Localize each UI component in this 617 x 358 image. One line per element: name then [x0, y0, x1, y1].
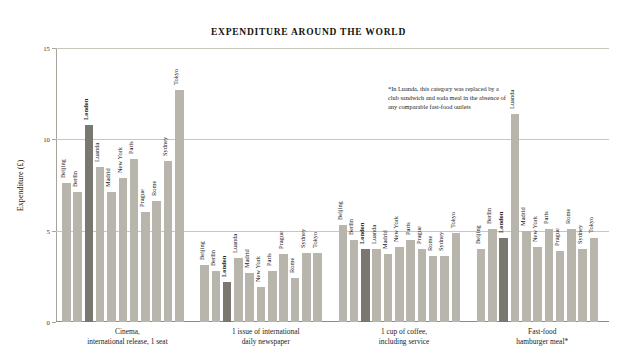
bar-slot[interactable]: Sydney — [164, 48, 173, 322]
bar[interactable] — [62, 183, 71, 322]
bar-slot[interactable]: London — [361, 48, 370, 322]
bar-slot[interactable]: Beijing — [200, 48, 209, 322]
y-tick-label: 0 — [34, 319, 50, 326]
bar[interactable] — [257, 287, 266, 322]
bar-slot[interactable]: Sydney — [302, 48, 311, 322]
bar-slot[interactable]: London — [223, 48, 232, 322]
y-axis-title: Expenditure (£) — [14, 48, 28, 322]
bar[interactable] — [567, 229, 576, 322]
bar[interactable] — [477, 249, 486, 322]
bar[interactable] — [522, 231, 531, 322]
bar[interactable] — [96, 167, 105, 322]
bar-slot[interactable]: Beijing — [62, 48, 71, 322]
bar-slot[interactable]: Paris — [268, 48, 277, 322]
bar[interactable] — [107, 192, 116, 322]
bar-slot[interactable]: Prague — [556, 48, 565, 322]
y-tick-label: 10 — [34, 136, 50, 143]
bar-slot[interactable]: Madrid — [522, 48, 531, 322]
bar[interactable] — [152, 201, 161, 322]
bar-slot[interactable]: Luanda — [511, 48, 520, 322]
bar[interactable] — [141, 212, 150, 322]
bar[interactable] — [440, 256, 449, 322]
bar[interactable] — [361, 249, 370, 322]
bar[interactable] — [175, 90, 184, 322]
footnote-annotation: *In Luanda, this category was replaced b… — [388, 84, 506, 111]
bar[interactable] — [85, 125, 94, 322]
bar[interactable] — [556, 251, 565, 322]
bar[interactable] — [372, 249, 381, 322]
bar[interactable] — [212, 271, 221, 322]
bar-slot[interactable]: Tokyo — [175, 48, 184, 322]
bar-slot[interactable]: Prague — [279, 48, 288, 322]
bar-slot[interactable]: Rome — [152, 48, 161, 322]
bar[interactable] — [418, 249, 427, 322]
bar[interactable] — [406, 240, 415, 322]
bar-slot[interactable]: Paris — [545, 48, 554, 322]
bar[interactable] — [223, 282, 232, 322]
bar-slot[interactable]: Berlin — [212, 48, 221, 322]
bar-slot[interactable]: Prague — [141, 48, 150, 322]
bar-slot[interactable]: New York — [257, 48, 266, 322]
bar-slot[interactable]: Tokyo — [590, 48, 599, 322]
bar[interactable] — [429, 256, 438, 322]
bar[interactable] — [511, 114, 520, 322]
bar[interactable] — [488, 229, 497, 322]
bar-slot[interactable]: Rome — [567, 48, 576, 322]
bar[interactable] — [339, 225, 348, 322]
y-tick-mark — [52, 231, 56, 232]
bar[interactable] — [545, 229, 554, 322]
bar-label: Rome — [564, 209, 571, 224]
bar-slot[interactable]: Beijing — [339, 48, 348, 322]
bar-label: Madrid — [243, 249, 250, 268]
bar-slot[interactable]: New York — [119, 48, 128, 322]
bar-slot[interactable]: New York — [533, 48, 542, 322]
bar[interactable] — [119, 178, 128, 322]
bar-slot[interactable]: Luanda — [372, 48, 381, 322]
bar[interactable] — [590, 238, 599, 322]
bar[interactable] — [578, 249, 587, 322]
bar-slot[interactable]: Berlin — [350, 48, 359, 322]
bar[interactable] — [279, 254, 288, 322]
bar-label: Berlin — [209, 250, 216, 266]
chart-title: EXPENDITURE AROUND THE WORLD — [0, 27, 617, 37]
bar-slot[interactable]: Madrid — [107, 48, 116, 322]
bar-label: Tokyo — [311, 231, 318, 247]
bar-label: Luanda — [93, 143, 100, 162]
y-tick-label: 15 — [34, 45, 50, 52]
bar[interactable] — [73, 192, 82, 322]
bar[interactable] — [499, 238, 508, 322]
bar[interactable] — [164, 161, 173, 322]
bar-label: Prague — [138, 190, 145, 208]
bar[interactable] — [234, 258, 243, 322]
bar-label: Beijing — [59, 159, 66, 178]
bar[interactable] — [268, 271, 277, 322]
bar-slot[interactable]: Berlin — [73, 48, 82, 322]
bar-slot[interactable]: Paris — [130, 48, 139, 322]
bar-label: London — [497, 212, 504, 233]
bar[interactable] — [130, 159, 139, 322]
bar-slot[interactable]: Luanda — [234, 48, 243, 322]
bar[interactable] — [384, 254, 393, 322]
bar-label: Prague — [277, 232, 284, 250]
y-tick-mark — [52, 48, 56, 49]
bar-label: Beijing — [336, 201, 343, 220]
category-label: Fast-food hamburger meal* — [463, 327, 617, 346]
bar[interactable] — [245, 273, 254, 322]
bar[interactable] — [452, 233, 461, 323]
bar-label: Sydney — [161, 137, 168, 156]
bar-slot[interactable]: Rome — [291, 48, 300, 322]
bar-slot[interactable]: Tokyo — [313, 48, 322, 322]
bar[interactable] — [350, 240, 359, 322]
plot-area: 051015 BeijingBerlinLondonLuandaMadridNe… — [56, 48, 609, 322]
bar-slot[interactable]: Madrid — [245, 48, 254, 322]
category-label: 1 issue of international daily newspaper — [186, 327, 345, 346]
bar[interactable] — [200, 265, 209, 322]
bar[interactable] — [395, 247, 404, 322]
bar-slot[interactable]: London — [85, 48, 94, 322]
bar[interactable] — [302, 253, 311, 322]
bar-slot[interactable]: Sydney — [578, 48, 587, 322]
bar[interactable] — [533, 247, 542, 322]
bar[interactable] — [291, 278, 300, 322]
bar-label: Paris — [404, 222, 411, 235]
bar[interactable] — [313, 253, 322, 322]
